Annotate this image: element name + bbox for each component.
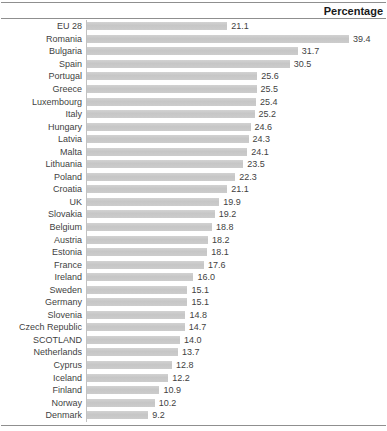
chart-row: Italy 25.2: [1, 108, 386, 121]
chart-row: Finland 10.9: [1, 384, 386, 397]
bar-area: 10.9: [86, 384, 386, 397]
value-label: 25.6: [261, 71, 279, 81]
value-label: 24.3: [253, 134, 271, 144]
bar-area: 15.1: [86, 283, 386, 296]
bar-area: 24.3: [86, 133, 386, 146]
chart-row: EU 28 21.1: [1, 20, 386, 33]
bar: [87, 323, 185, 331]
bar-area: 9.2: [86, 409, 386, 422]
bar-area: 13.7: [86, 346, 386, 359]
bar-area: 25.6: [86, 70, 386, 83]
value-label: 10.2: [159, 398, 177, 408]
bar: [87, 386, 159, 394]
bar: [87, 236, 208, 244]
chart-row: Czech Republic 14.7: [1, 321, 386, 334]
category-label: Poland: [1, 172, 86, 182]
value-label: 9.2: [152, 410, 165, 420]
bar-area: 12.8: [86, 359, 386, 372]
bar: [87, 374, 168, 382]
bar: [87, 261, 204, 269]
bar-area: 25.5: [86, 83, 386, 96]
bar: [87, 35, 349, 43]
chart-title: Percentage: [1, 2, 386, 19]
category-label: Bulgaria: [1, 46, 86, 56]
category-label: Estonia: [1, 247, 86, 257]
bar-area: 12.2: [86, 371, 386, 384]
bar: [87, 160, 243, 168]
chart-row: Portugal 25.6: [1, 70, 386, 83]
category-label: Austria: [1, 235, 86, 245]
category-label: Portugal: [1, 71, 86, 81]
value-label: 24.1: [251, 147, 269, 157]
chart-row: Latvia 24.3: [1, 133, 386, 146]
category-label: Italy: [1, 109, 86, 119]
bar: [87, 273, 193, 281]
chart-row: UK 19.9: [1, 196, 386, 209]
value-label: 21.1: [231, 184, 249, 194]
category-label: Croatia: [1, 184, 86, 194]
bar: [87, 399, 155, 407]
chart-row: Belgium 18.8: [1, 221, 386, 234]
bar: [87, 135, 249, 143]
category-label: Slovenia: [1, 310, 86, 320]
bar-area: 19.2: [86, 208, 386, 221]
bar: [87, 248, 207, 256]
chart-row: Austria 18.2: [1, 233, 386, 246]
category-label: Greece: [1, 84, 86, 94]
chart-row: SCOTLAND 14.0: [1, 334, 386, 347]
chart-row: Sweden 15.1: [1, 283, 386, 296]
bar-area: 10.2: [86, 396, 386, 409]
bar-area: 16.0: [86, 271, 386, 284]
chart-row: Iceland 12.2: [1, 371, 386, 384]
value-label: 39.4: [353, 34, 371, 44]
bar-area: 18.1: [86, 246, 386, 259]
chart-row: Denmark 9.2: [1, 409, 386, 422]
chart-row: Poland 22.3: [1, 171, 386, 184]
chart-row: Netherlands 13.7: [1, 346, 386, 359]
category-label: Luxembourg: [1, 97, 86, 107]
bar: [87, 98, 256, 106]
value-label: 14.0: [184, 335, 202, 345]
bar: [87, 311, 185, 319]
value-label: 19.9: [223, 197, 241, 207]
bar-area: 23.5: [86, 158, 386, 171]
bar-area: 25.4: [86, 95, 386, 108]
value-label: 19.2: [219, 209, 237, 219]
bar-area: 14.7: [86, 321, 386, 334]
category-label: Norway: [1, 398, 86, 408]
chart-row: Slovakia 19.2: [1, 208, 386, 221]
category-label: Lithuania: [1, 159, 86, 169]
bar-area: 25.2: [86, 108, 386, 121]
category-label: Hungary: [1, 122, 86, 132]
bar-area: 22.3: [86, 171, 386, 184]
value-label: 25.2: [259, 109, 277, 119]
value-label: 24.6: [255, 122, 273, 132]
chart-row: Greece 25.5: [1, 83, 386, 96]
bar: [87, 85, 257, 93]
category-label: Iceland: [1, 373, 86, 383]
value-label: 12.2: [172, 373, 190, 383]
category-label: Malta: [1, 147, 86, 157]
bar: [87, 210, 215, 218]
category-label: Ireland: [1, 272, 86, 282]
category-label: EU 28: [1, 21, 86, 31]
category-label: Germany: [1, 297, 86, 307]
chart-row: Hungary 24.6: [1, 120, 386, 133]
chart-row: Cyprus 12.8: [1, 359, 386, 372]
bar: [87, 223, 212, 231]
category-label: Spain: [1, 59, 86, 69]
value-label: 14.8: [189, 310, 207, 320]
bar-area: 24.6: [86, 120, 386, 133]
chart-row: France 17.6: [1, 258, 386, 271]
chart-row: Spain 30.5: [1, 58, 386, 71]
value-label: 21.1: [231, 21, 249, 31]
bar: [87, 185, 227, 193]
bar-area: 21.1: [86, 20, 386, 33]
value-label: 14.7: [189, 322, 207, 332]
value-label: 25.5: [261, 84, 279, 94]
chart-row: Estonia 18.1: [1, 246, 386, 259]
chart-row: Malta 24.1: [1, 145, 386, 158]
category-label: UK: [1, 197, 86, 207]
bar: [87, 173, 235, 181]
bar-area: 18.2: [86, 233, 386, 246]
